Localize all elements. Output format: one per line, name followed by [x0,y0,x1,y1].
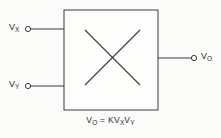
output-vo-terminal-icon [191,55,196,60]
equation-lhs-subscript: O [92,119,97,126]
input-vx-terminal-icon [25,26,30,31]
input-vx-connector [25,26,64,31]
input-vy-label-subscript: Y [15,83,19,90]
equation-term2-subscript: Y [130,119,134,126]
multiplier-diagram: VX VY VO VO = KVXVY [0,0,221,138]
input-vy-connector [25,83,64,88]
multiplier-block-body [64,10,158,110]
output-vo-label: VO [201,52,212,61]
transfer-function-equation: VO = KVXVY [0,116,221,125]
input-vy-terminal-icon [25,83,30,88]
input-vx-label-subscript: X [15,26,19,33]
input-vx-label: VX [9,23,19,32]
equation-term1-subscript: X [120,119,124,126]
output-vo-connector [158,55,197,60]
input-vy-label: VY [9,80,19,89]
output-vo-label-subscript: O [207,55,212,62]
